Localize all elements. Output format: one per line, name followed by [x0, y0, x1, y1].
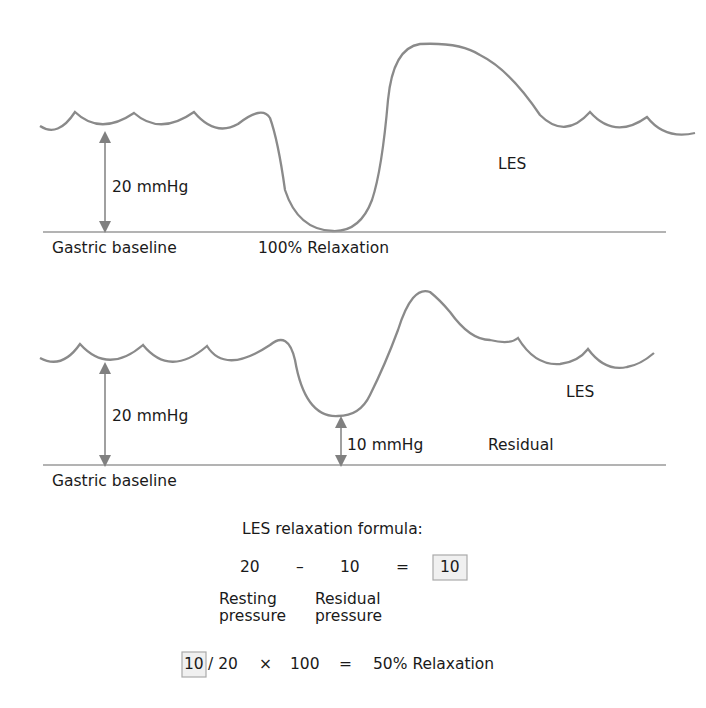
times-sign: × [259, 655, 272, 673]
final-result: 50% Relaxation [373, 655, 494, 673]
resting-pressure-label-top: 20 mmHg [112, 178, 188, 196]
les-label-bottom: LES [566, 383, 594, 401]
residual-value: 10 [340, 558, 360, 576]
formula-title: LES relaxation formula: [242, 520, 423, 538]
residual-caption-line2: pressure [315, 608, 382, 625]
residual-pressure-value-label: 10 mmHg [347, 436, 423, 454]
resting-caption-line1: Resting [219, 591, 286, 608]
final-equals-sign: = [339, 655, 352, 673]
final-denominator: / 20 [208, 655, 238, 673]
final-numerator: 10 [184, 655, 204, 673]
gastric-baseline-label-top: Gastric baseline [52, 239, 177, 257]
full-relaxation-label: 100% Relaxation [258, 239, 389, 257]
gastric-baseline-label-bottom: Gastric baseline [52, 472, 177, 490]
resting-caption-line2: pressure [219, 608, 286, 625]
resting-caption: Resting pressure [219, 591, 286, 625]
hundred-value: 100 [290, 655, 320, 673]
resting-pressure-label-bottom: 20 mmHg [112, 407, 188, 425]
formula-result: 10 [440, 558, 460, 576]
minus-sign: – [296, 558, 304, 576]
resting-value: 20 [240, 558, 260, 576]
residual-label: Residual [488, 436, 553, 454]
residual-caption: Residual pressure [315, 591, 382, 625]
residual-caption-line1: Residual [315, 591, 382, 608]
les-label-top: LES [498, 155, 526, 173]
les-pressure-curve-bottom [40, 291, 654, 416]
equals-sign: = [396, 558, 409, 576]
les-pressure-curve-top [40, 44, 695, 231]
